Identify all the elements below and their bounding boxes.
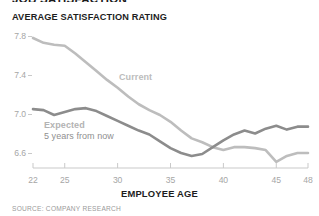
- y-tick-mark: [28, 75, 32, 76]
- series-line-current: [33, 38, 308, 162]
- y-tick-label: 7.0: [4, 109, 26, 119]
- tick-marks: [33, 163, 308, 168]
- chart-page: JOB SATISFACTION AVERAGE SATISFACTION RA…: [0, 0, 319, 216]
- x-tick-label: 25: [53, 175, 77, 185]
- series-label-expected: Expected: [44, 120, 85, 130]
- y-tick-mark: [28, 153, 32, 154]
- x-axis-title: EMPLOYEE AGE: [0, 188, 319, 199]
- y-tick-label: 6.6: [4, 148, 26, 158]
- x-tick-label: 30: [106, 175, 130, 185]
- y-tick-mark: [28, 36, 32, 37]
- series-label-current: Current: [119, 72, 152, 82]
- series-sublabel-expected: 5 years from now: [44, 131, 114, 141]
- y-tick-mark: [28, 114, 32, 115]
- x-tick-label: 40: [211, 175, 235, 185]
- x-tick-label: 48: [296, 175, 319, 185]
- source-note: SOURCE: COMPANY RESEARCH: [12, 205, 121, 212]
- y-tick-label: 7.8: [4, 31, 26, 41]
- x-tick-label: 35: [159, 175, 183, 185]
- x-tick-label: 45: [264, 175, 288, 185]
- y-tick-label: 7.4: [4, 70, 26, 80]
- x-tick-label: 22: [21, 175, 45, 185]
